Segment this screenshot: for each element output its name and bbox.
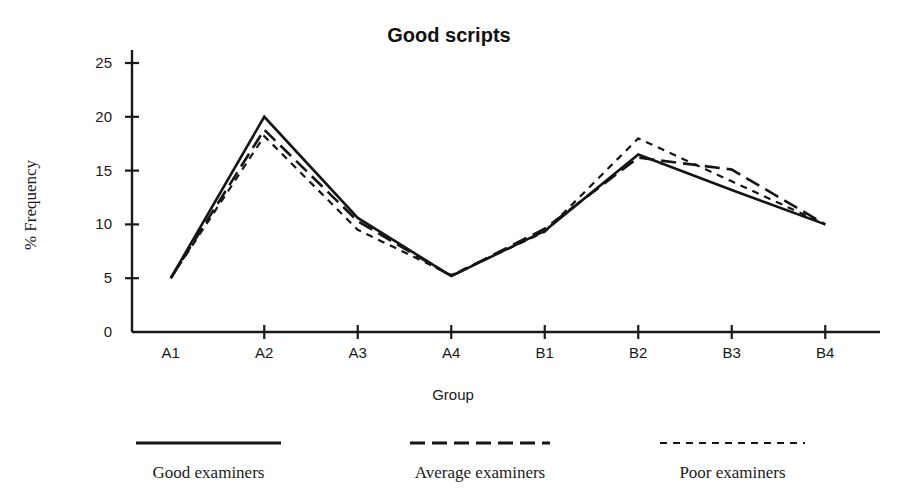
y-tick-label: 0 [104, 323, 112, 340]
series-line-average [171, 130, 826, 278]
y-tick-label: 20 [95, 108, 112, 125]
legend-label-good: Good examiners [153, 463, 265, 482]
y-tick-label: 25 [95, 54, 112, 71]
series-lines [171, 117, 826, 278]
y-tick-label: 15 [95, 162, 112, 179]
x-tick-label: B4 [816, 344, 834, 361]
x-axis-label: Group [432, 386, 474, 403]
x-tick-label: A3 [349, 344, 367, 361]
x-tick-label: B2 [629, 344, 647, 361]
x-tick-label: A2 [255, 344, 273, 361]
legend-label-average: Average examiners [415, 463, 545, 482]
y-axis-label: % Frequency [21, 159, 40, 250]
chart-figure: Good scripts % Frequency Group 051015202… [0, 0, 899, 498]
chart-legend: Good examinersAverage examinersPoor exam… [136, 443, 805, 482]
x-tick-label: B1 [536, 344, 554, 361]
y-tick-label: 10 [95, 215, 112, 232]
x-tick-label: A4 [442, 344, 460, 361]
series-line-poor [171, 136, 826, 278]
y-tick-label: 5 [104, 269, 112, 286]
chart-svg: Good scripts % Frequency Group 051015202… [0, 0, 899, 498]
chart-title: Good scripts [387, 24, 510, 46]
x-tick-label: B3 [723, 344, 741, 361]
x-axis-ticks: A1A2A3A4B1B2B3B4 [162, 325, 835, 361]
x-tick-label: A1 [162, 344, 180, 361]
legend-label-poor: Poor examiners [679, 463, 785, 482]
